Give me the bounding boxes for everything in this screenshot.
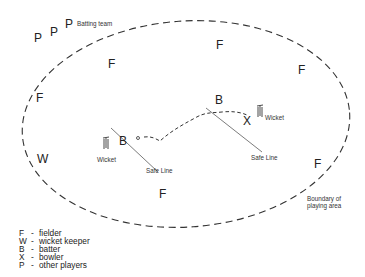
bowler: X [243,114,251,128]
batter-right: B [215,93,223,107]
fielder-1: F [108,57,115,71]
boundary-ellipse [15,10,357,238]
fielder-2: F [216,38,223,52]
ball-path [144,112,247,141]
legend-separator: - [31,261,39,269]
batter-left: B [119,134,127,148]
ball-icon [137,137,140,140]
fielder-6: F [159,187,166,201]
left-wicket-label: Wicket [97,156,116,163]
left-safe-line-label: Safe Line [146,167,173,174]
wicket-keeper: W [37,152,49,166]
legend-row-other-players: P - other players [19,261,90,269]
left-wicket-icon [103,137,109,149]
right-safe-line-label: Safe Line [251,154,278,161]
fielder-3: F [298,63,305,77]
batting-team-label: Batting team [77,20,112,28]
right-wicket-icon [257,105,263,117]
other-player-2: P [50,25,58,39]
other-player-1: P [34,31,42,45]
boundary-label-line2: playing area [307,202,342,210]
right-safe-line [206,108,262,152]
legend: F - fielder W - wicket keeper B - batter… [19,229,90,269]
legend-key: P [19,261,31,269]
right-wicket-label: Wicket [265,114,284,121]
legend-label: other players [39,261,87,269]
fielder-4: F [36,91,43,105]
other-player-3: P [65,17,73,31]
fielder-5: F [314,157,321,171]
